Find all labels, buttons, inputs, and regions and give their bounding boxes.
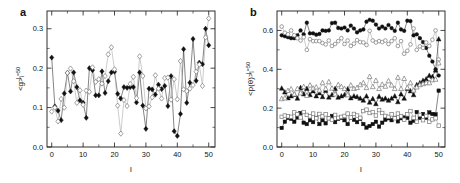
svg-text:0.2: 0.2 xyxy=(263,104,273,113)
svg-text:0.2: 0.2 xyxy=(33,64,43,73)
svg-text:0.1: 0.1 xyxy=(33,103,43,112)
svg-text:30: 30 xyxy=(142,150,150,159)
svg-text:<g>iL=50: <g>iL=50 xyxy=(15,67,25,91)
svg-text:0.4: 0.4 xyxy=(263,65,273,74)
svg-text:50: 50 xyxy=(435,150,443,159)
figure-root: a 0.00.10.20.301020304050l<g>iL=50 b 0.0… xyxy=(0,0,460,183)
panel-a: a 0.00.10.20.301020304050l<g>iL=50 xyxy=(0,0,230,183)
panel-b-plot: 0.00.20.40.601020304050l<p(θ)>iL=50 xyxy=(230,0,460,183)
panel-b: b 0.00.20.40.601020304050l<p(θ)>iL=50 xyxy=(230,0,460,183)
svg-text:10: 10 xyxy=(309,150,317,159)
svg-text:l: l xyxy=(130,165,132,174)
svg-text:0: 0 xyxy=(50,150,54,159)
svg-text:0.0: 0.0 xyxy=(33,143,43,152)
svg-text:0.3: 0.3 xyxy=(33,24,43,33)
svg-text:40: 40 xyxy=(173,150,181,159)
svg-text:20: 20 xyxy=(110,150,118,159)
svg-text:20: 20 xyxy=(340,150,348,159)
panel-a-plot: 0.00.10.20.301020304050l<g>iL=50 xyxy=(0,0,230,183)
svg-text:0: 0 xyxy=(280,150,284,159)
svg-text:10: 10 xyxy=(79,150,87,159)
svg-text:<p(θ)>iL=50: <p(θ)>iL=50 xyxy=(245,62,255,96)
svg-text:30: 30 xyxy=(372,150,380,159)
svg-text:0.0: 0.0 xyxy=(263,143,273,152)
svg-text:l: l xyxy=(360,165,362,174)
svg-text:40: 40 xyxy=(403,150,411,159)
svg-text:0.6: 0.6 xyxy=(263,26,273,35)
svg-text:50: 50 xyxy=(205,150,213,159)
